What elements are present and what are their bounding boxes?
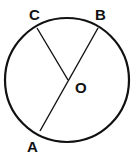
segment-co [37,28,68,80]
label-c: C [29,6,40,23]
circle [5,18,129,142]
label-b: B [95,6,106,23]
label-o: O [75,79,87,96]
circle-diagram: C B O A [0,0,140,157]
segment-ab [40,28,98,131]
label-a: A [27,138,38,155]
